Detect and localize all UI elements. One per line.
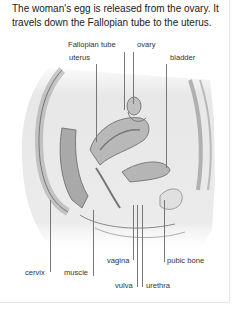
leader-line-fallopian-tube [124,52,125,110]
label-cervix: cervix [25,268,45,277]
label-muscle: muscle [64,268,88,277]
leader-line-bladder [166,64,167,168]
label-uterus: uterus [69,53,90,62]
label-bladder: bladder [170,53,195,62]
label-pubic-bone: pubic bone [167,256,204,265]
label-vagina: vagina [107,256,129,265]
label-ovary: ovary [137,40,156,49]
leader-line-ovary [133,52,134,104]
label-vulva: vulva [115,281,133,290]
leader-line-vulva [137,205,138,287]
diagram-card: The woman's egg is released from the ova… [0,0,230,303]
leader-line-uterus [96,64,97,142]
leader-line-cervix [50,200,51,272]
label-fallopian-tube: Fallopian tube [68,40,116,49]
leader-line-muscle [93,210,94,276]
leader-line-pubic-bone [164,200,165,262]
leader-line-vagina [133,205,134,260]
leader-line-urethra [142,205,143,287]
label-urethra: urethra [146,281,170,290]
